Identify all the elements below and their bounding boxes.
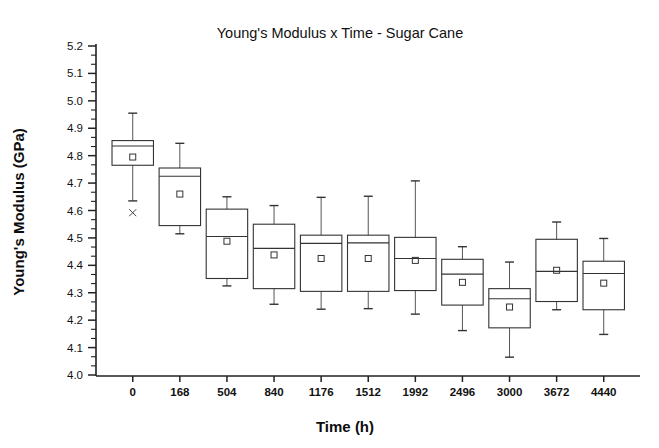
x-tick-label: 2496 <box>450 386 476 398</box>
box-plot-figure: Young's Modulus x Time - Sugar Cane Youn… <box>0 0 659 448</box>
y-tick-label: 4.3 <box>67 287 83 299</box>
x-tick-label: 1512 <box>355 386 381 398</box>
x-tick-label: 504 <box>217 386 237 398</box>
x-tick-label: 3000 <box>497 386 523 398</box>
x-tick-label: 1176 <box>309 386 334 398</box>
x-tick-label: 840 <box>264 386 283 398</box>
y-tick-label: 4.6 <box>67 205 83 217</box>
y-tick-label: 4.0 <box>67 369 83 381</box>
x-tick-label: 0 <box>130 386 136 398</box>
x-tick-label: 3672 <box>544 386 570 398</box>
y-axis-title: Young's Modulus (GPa) <box>10 128 27 295</box>
y-tick-label: 4.1 <box>67 342 83 354</box>
y-tick-label: 4.2 <box>67 314 83 326</box>
y-tick-label: 4.9 <box>67 122 83 134</box>
y-tick-label: 4.8 <box>67 150 83 162</box>
y-tick-label: 5.0 <box>67 95 83 107</box>
x-tick-label: 168 <box>170 386 190 398</box>
chart-container: Young's Modulus x Time - Sugar Cane Youn… <box>0 0 659 448</box>
figure-background <box>0 0 659 448</box>
x-tick-label: 1992 <box>403 386 429 398</box>
y-tick-label: 4.4 <box>67 259 84 271</box>
y-tick-label: 5.1 <box>67 67 83 79</box>
y-tick-label: 4.5 <box>67 232 83 244</box>
x-tick-label: 4440 <box>591 386 617 398</box>
x-axis-title: Time (h) <box>316 418 374 435</box>
chart-title: Young's Modulus x Time - Sugar Cane <box>217 25 463 41</box>
y-tick-label: 4.7 <box>67 177 83 189</box>
y-tick-label: 5.2 <box>67 40 83 52</box>
